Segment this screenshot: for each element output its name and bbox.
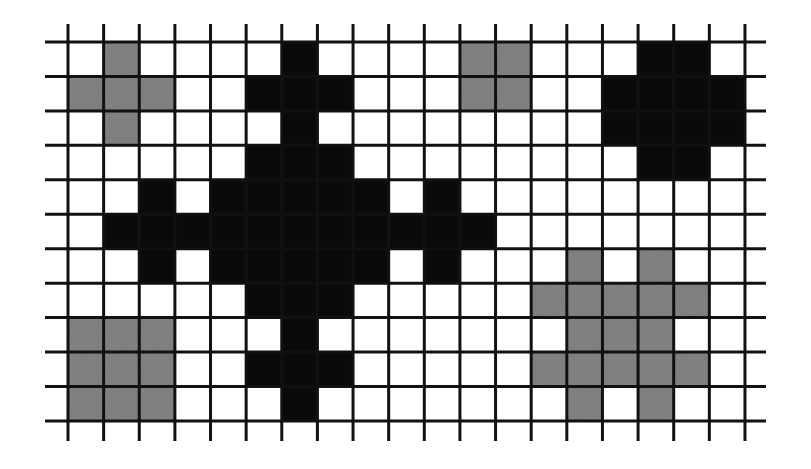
black-cell <box>139 249 175 284</box>
gray-cell <box>602 283 638 318</box>
black-cell <box>246 283 282 318</box>
black-cell <box>282 318 318 353</box>
black-cell <box>282 283 318 318</box>
black-cell <box>282 214 318 249</box>
black-cell <box>638 145 674 180</box>
black-cell <box>353 214 389 249</box>
black-cell <box>674 145 710 180</box>
gray-cell <box>104 76 140 111</box>
black-cell <box>246 249 282 284</box>
black-cell <box>211 214 247 249</box>
gray-cell <box>139 318 175 353</box>
gray-square-3x3-bottom-left <box>68 318 175 422</box>
black-cell <box>282 352 318 387</box>
gray-lattice-bottom-right <box>531 249 710 422</box>
gray-cell <box>68 318 104 353</box>
black-cell <box>602 76 638 111</box>
black-cell <box>424 214 460 249</box>
black-cell <box>317 180 353 215</box>
black-cell <box>424 180 460 215</box>
gray-cell <box>567 387 603 422</box>
gray-cell <box>139 76 175 111</box>
gray-cell <box>104 42 140 77</box>
black-cell <box>246 180 282 215</box>
black-cell <box>175 214 211 249</box>
black-cell <box>246 214 282 249</box>
gray-cell <box>567 352 603 387</box>
black-cell <box>211 249 247 284</box>
black-cell <box>353 249 389 284</box>
gray-cell <box>602 318 638 353</box>
black-cell <box>317 283 353 318</box>
black-cell <box>674 42 710 77</box>
black-cell <box>246 352 282 387</box>
gray-cell <box>567 283 603 318</box>
black-cell <box>282 111 318 146</box>
black-cell <box>674 111 710 146</box>
gray-cell <box>104 387 140 422</box>
black-cell <box>709 111 745 146</box>
black-cell <box>246 76 282 111</box>
gray-cell <box>674 283 710 318</box>
black-cell <box>317 76 353 111</box>
gray-cell <box>496 42 532 77</box>
gray-cell <box>460 76 496 111</box>
gray-cell <box>68 76 104 111</box>
gray-cell <box>638 318 674 353</box>
gray-cell <box>531 352 567 387</box>
black-cell <box>104 214 140 249</box>
black-cell <box>139 180 175 215</box>
black-cell <box>246 145 282 180</box>
black-cell <box>317 352 353 387</box>
gray-cell <box>638 283 674 318</box>
gray-cell <box>139 387 175 422</box>
grid-figure <box>0 0 811 469</box>
black-cell <box>282 145 318 180</box>
black-cell <box>211 180 247 215</box>
black-cell <box>638 76 674 111</box>
black-cell <box>282 249 318 284</box>
gray-cell <box>674 352 710 387</box>
gray-cell <box>567 318 603 353</box>
black-cell <box>602 111 638 146</box>
gray-cell <box>104 111 140 146</box>
black-cell <box>317 145 353 180</box>
black-cell <box>282 42 318 77</box>
pixel-grid-diagram <box>0 0 811 469</box>
black-cell <box>139 214 175 249</box>
black-cell <box>353 180 389 215</box>
gray-cell <box>68 387 104 422</box>
gray-cell <box>139 352 175 387</box>
gray-cell <box>104 352 140 387</box>
black-cell <box>317 214 353 249</box>
gray-cell <box>460 42 496 77</box>
black-cell <box>638 42 674 77</box>
black-cell <box>389 214 425 249</box>
black-cell <box>674 76 710 111</box>
filled-cells-layer <box>68 42 746 422</box>
black-cell <box>460 214 496 249</box>
black-cell <box>282 76 318 111</box>
black-cell <box>282 180 318 215</box>
small-gray-plus-top-left <box>68 42 175 146</box>
gray-cell <box>638 352 674 387</box>
gray-cell <box>638 249 674 284</box>
black-cell <box>424 249 460 284</box>
black-cell <box>709 76 745 111</box>
black-cell <box>638 111 674 146</box>
black-cell <box>317 249 353 284</box>
gray-cell <box>602 352 638 387</box>
black-cell <box>282 387 318 422</box>
gray-cell <box>68 352 104 387</box>
gray-cell <box>531 283 567 318</box>
gray-cell <box>104 318 140 353</box>
gray-cell <box>496 76 532 111</box>
gray-cell <box>567 249 603 284</box>
gray-cell <box>638 387 674 422</box>
